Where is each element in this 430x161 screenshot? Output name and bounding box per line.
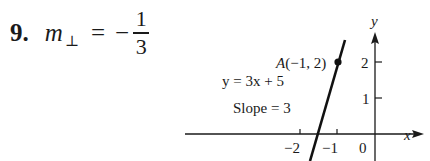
y-axis-label: y bbox=[369, 13, 378, 29]
graph: A(−1, 2) y = 3x + 5 Slope = 3 −2 −1 0 1 … bbox=[0, 0, 430, 161]
x-axis-label: x bbox=[403, 127, 411, 143]
x-tick-label: −1 bbox=[322, 140, 338, 156]
x-tick-label: −2 bbox=[284, 140, 300, 156]
y-tick-label: 1 bbox=[362, 91, 370, 107]
equation-label: y = 3x + 5 bbox=[222, 73, 284, 89]
slope-label: Slope = 3 bbox=[233, 100, 291, 116]
point-a bbox=[334, 58, 341, 65]
point-a-label: A(−1, 2) bbox=[275, 55, 326, 72]
x-tick-label: 0 bbox=[359, 140, 367, 156]
y-tick-label: 2 bbox=[361, 55, 369, 71]
